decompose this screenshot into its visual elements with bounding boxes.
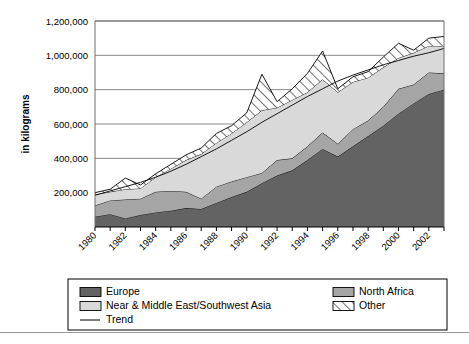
legend-label-europe: Europe: [106, 285, 140, 297]
legend-swatch-europe: [80, 288, 101, 297]
y-tick-label: 600,000: [54, 119, 88, 130]
y-tick-label: 200,000: [54, 187, 88, 198]
legend-label-trend: Trend: [106, 313, 133, 325]
footer-rule: [0, 332, 469, 333]
legend-label-other: Other: [359, 299, 386, 311]
stacked-area-chart: 1980198219841986198819901992199419961998…: [0, 0, 469, 344]
y-tick-label: 1,000,000: [46, 50, 88, 61]
legend-swatch-north-africa: [333, 288, 354, 297]
legend-label-north-africa: North Africa: [359, 285, 414, 297]
legend-label-near-middle-east-southwest-asia: Near & Middle East/Southwest Asia: [106, 299, 271, 311]
y-tick-label: 400,000: [54, 153, 88, 164]
legend-swatch-near-middle-east-southwest-asia: [80, 302, 101, 311]
y-axis-title: in kilograms: [20, 94, 31, 153]
y-tick-label: 1,200,000: [46, 16, 88, 27]
legend-swatch-other: [333, 302, 354, 311]
chart-figure: 1980198219841986198819901992199419961998…: [0, 0, 469, 344]
y-tick-label: 800,000: [54, 84, 88, 95]
